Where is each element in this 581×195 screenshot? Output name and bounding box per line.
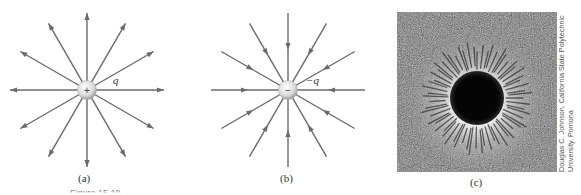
photo-credit: Douglas C. Johnson, California State Pol…	[558, 12, 580, 172]
svg-text:−: −	[285, 85, 291, 96]
photo-credit-line-2: University, Pomona	[567, 12, 576, 172]
field-pattern-photo	[397, 12, 557, 172]
photo-rendering	[397, 12, 557, 172]
panel-label-c: (c)	[470, 176, 482, 188]
diagram-positive-charge: + q (a)	[0, 0, 180, 195]
panel-label-b: (b)	[280, 172, 293, 184]
field-lines-inward: −	[200, 0, 380, 195]
field-lines-outward: +	[0, 0, 180, 195]
charge-label-minus-q: −q	[306, 74, 319, 86]
panel-label-a: (a)	[78, 172, 90, 184]
charge-label-q: q	[113, 74, 119, 86]
diagram-negative-charge: − −q (b)	[200, 0, 380, 195]
svg-text:+: +	[84, 85, 90, 96]
